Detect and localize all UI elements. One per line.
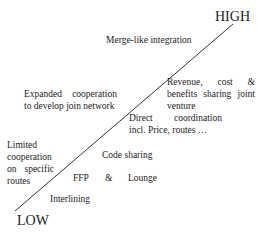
limited-cooperation-line4: routes bbox=[7, 175, 30, 187]
word: cooperation bbox=[72, 88, 117, 100]
word: sharing bbox=[203, 88, 231, 100]
code-sharing-label: Code sharing bbox=[102, 149, 152, 161]
ffp-label: FFP bbox=[73, 172, 89, 184]
expanded-cooperation-line2: to develop join network bbox=[24, 100, 115, 112]
word: benefits bbox=[167, 88, 197, 100]
ampersand-label: & bbox=[105, 172, 112, 184]
revenue-sharing-line2: benefits sharing joint bbox=[167, 88, 255, 100]
limited-cooperation-line3: on specific bbox=[7, 163, 54, 175]
word: Revenue, bbox=[167, 76, 203, 88]
word: & bbox=[248, 76, 255, 88]
word: joint bbox=[238, 88, 255, 100]
high-label: HIGH bbox=[215, 9, 250, 25]
direct-coordination-line2: incl. Price, routes … bbox=[129, 124, 207, 136]
revenue-sharing-line3: venture bbox=[167, 100, 196, 112]
limited-cooperation-line1: Limited bbox=[7, 139, 37, 151]
expanded-cooperation-line1: Expanded cooperation bbox=[24, 88, 117, 100]
word: cost bbox=[217, 76, 232, 88]
direct-coordination-line1: Direct coordination bbox=[129, 112, 222, 124]
lounge-label: Lounge bbox=[128, 172, 157, 184]
word: Direct bbox=[129, 112, 153, 124]
revenue-sharing-line1: Revenue, cost & bbox=[167, 76, 255, 88]
word: coordination bbox=[174, 112, 222, 124]
low-label: LOW bbox=[17, 213, 49, 229]
interlining-label: Interlining bbox=[50, 193, 90, 205]
word: on bbox=[7, 163, 17, 175]
word: Expanded bbox=[24, 88, 62, 100]
limited-cooperation-line2: cooperation bbox=[7, 151, 52, 163]
merge-like-integration-label: Merge-like integration bbox=[106, 34, 192, 46]
word: specific bbox=[24, 163, 54, 175]
